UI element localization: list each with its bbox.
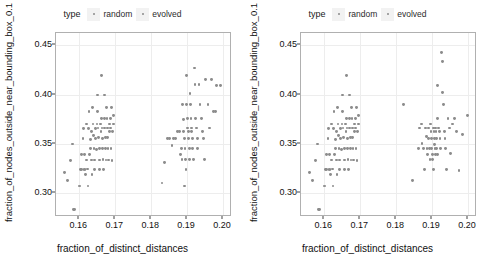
- x-tick-label: 0.20: [213, 220, 231, 230]
- y-tick-label: 0.35: [34, 138, 52, 148]
- x-tick-label: 0.19: [422, 220, 440, 230]
- panel-right: type random evolved fraction_of_nodes_ou…: [245, 0, 490, 269]
- y-tick-label: 0.45: [279, 39, 297, 49]
- y-tick-mark: [52, 93, 55, 94]
- legend-label-random: random: [103, 9, 132, 19]
- x-tick-mark: [114, 216, 115, 219]
- y-tick-mark: [297, 44, 300, 45]
- legend-left: type random evolved: [0, 6, 245, 22]
- x-tick-label: 0.19: [177, 220, 195, 230]
- legend-item-random[interactable]: random: [87, 8, 132, 21]
- axis-ticks-right: 0.300.350.400.450.160.170.180.190.20: [300, 32, 476, 216]
- legend-item-random[interactable]: random: [332, 8, 377, 21]
- legend-key-random-icon: [87, 8, 100, 21]
- y-tick-label: 0.40: [279, 89, 297, 99]
- x-tick-mark: [467, 216, 468, 219]
- x-tick-label: 0.18: [386, 220, 404, 230]
- y-axis-title-right: fraction_of_nodes_outside_near_bounding_…: [247, 0, 261, 225]
- y-tick-mark: [297, 191, 300, 192]
- legend-label-evolved: evolved: [397, 9, 426, 19]
- x-tick-label: 0.18: [141, 220, 159, 230]
- legend-label-evolved: evolved: [152, 9, 181, 19]
- x-tick-label: 0.16: [315, 220, 333, 230]
- legend-label-random: random: [348, 9, 377, 19]
- x-tick-mark: [359, 216, 360, 219]
- legend-title: type: [308, 9, 325, 19]
- y-tick-mark: [297, 93, 300, 94]
- legend-item-evolved[interactable]: evolved: [381, 8, 426, 21]
- x-axis-title-right: fraction_of_distinct_distances: [245, 243, 490, 254]
- panel-left: type random evolved fraction_of_nodes_ou…: [0, 0, 245, 269]
- legend-key-random-icon: [332, 8, 345, 21]
- y-tick-mark: [52, 44, 55, 45]
- legend-key-evolved-icon: [136, 8, 149, 21]
- y-tick-mark: [52, 191, 55, 192]
- x-tick-label: 0.17: [351, 220, 369, 230]
- x-tick-label: 0.16: [70, 220, 88, 230]
- axis-ticks-left: 0.300.350.400.450.160.170.180.190.20: [55, 32, 231, 216]
- y-tick-label: 0.30: [34, 187, 52, 197]
- x-tick-label: 0.20: [458, 220, 476, 230]
- y-tick-label: 0.45: [34, 39, 52, 49]
- x-tick-mark: [78, 216, 79, 219]
- legend-item-evolved[interactable]: evolved: [136, 8, 181, 21]
- x-tick-mark: [150, 216, 151, 219]
- y-tick-label: 0.30: [279, 187, 297, 197]
- x-tick-mark: [186, 216, 187, 219]
- legend-right: type random evolved: [245, 6, 490, 22]
- scatter-figure: type random evolved fraction_of_nodes_ou…: [0, 0, 490, 269]
- x-tick-mark: [222, 216, 223, 219]
- y-tick-label: 0.35: [279, 138, 297, 148]
- legend-title: type: [63, 9, 80, 19]
- x-tick-label: 0.17: [106, 220, 124, 230]
- legend-key-evolved-icon: [381, 8, 394, 21]
- x-tick-mark: [431, 216, 432, 219]
- y-axis-title-left: fraction_of_nodes_outside_near_bounding_…: [2, 0, 16, 225]
- y-tick-label: 0.40: [34, 89, 52, 99]
- x-axis-title-left: fraction_of_distinct_distances: [0, 243, 245, 254]
- x-tick-mark: [395, 216, 396, 219]
- y-tick-mark: [52, 142, 55, 143]
- x-tick-mark: [323, 216, 324, 219]
- y-tick-mark: [297, 142, 300, 143]
